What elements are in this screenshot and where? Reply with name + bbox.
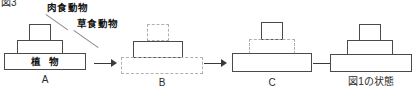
panel-b-tier-herbivore bbox=[133, 41, 183, 58]
arrow-b-to-c bbox=[204, 58, 228, 69]
carnivore-annotation-label: 肉食動物 bbox=[47, 2, 89, 13]
panel-b-tier-plants bbox=[121, 57, 203, 74]
panel-a-tier-herbivore bbox=[17, 40, 63, 54]
panel-d-tier-carnivore bbox=[359, 24, 381, 41]
panel-c: C bbox=[232, 22, 320, 92]
panel-b-caption: B bbox=[121, 77, 203, 88]
panel-c-tier-plants bbox=[232, 53, 312, 72]
panel-a-tier-plants: 植 物 bbox=[4, 53, 86, 70]
arrow-a-to-b bbox=[94, 58, 118, 69]
panel-b: B bbox=[121, 24, 209, 92]
panel-d-tier-plants bbox=[330, 54, 412, 72]
figure-number-label: 図3 bbox=[1, 0, 17, 8]
panel-d-caption: 図1の状態 bbox=[330, 76, 412, 87]
panel-c-tier-carnivore bbox=[261, 22, 283, 40]
panel-c-caption: C bbox=[232, 77, 312, 88]
panel-a-caption: A bbox=[4, 74, 86, 85]
panel-b-tier-carnivore bbox=[147, 24, 169, 41]
panel-a: 植 物 A bbox=[4, 24, 92, 92]
panel-a-plants-label: 植 物 bbox=[5, 57, 85, 67]
ecological-pyramid-figure: 図3 肉食動物 草食動物 植 物 A B C bbox=[0, 0, 414, 112]
panel-a-tier-carnivore bbox=[29, 24, 51, 41]
panel-c-tier-herbivore bbox=[249, 39, 295, 54]
panel-d-tier-herbivore bbox=[347, 40, 393, 55]
panel-final-state: 図1の状態 bbox=[330, 24, 414, 92]
